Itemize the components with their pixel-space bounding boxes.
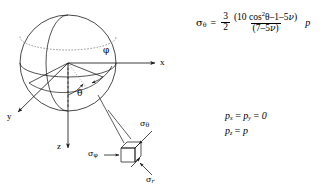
cube-right-face xyxy=(135,142,141,162)
pxy-value: 0 xyxy=(262,110,267,121)
sigma-phi-subscript: φ xyxy=(93,151,97,158)
sigma-theta-subscript: θ xyxy=(145,121,149,128)
y-axis-line xyxy=(18,63,68,112)
x-axis-label: x xyxy=(160,58,165,67)
pressure-line-xy: px = py = 0 xyxy=(225,109,267,124)
theta-angle-label: θ xyxy=(77,89,82,98)
equation-equals-sign: = xyxy=(211,17,217,28)
pressure-conditions: px = py = 0 pz = p xyxy=(225,109,267,138)
equation-lhs-symbol: σ xyxy=(196,17,203,28)
phi-angle-label: φ xyxy=(103,46,109,55)
sigma-phi-label: σφ xyxy=(88,150,98,159)
figure-root: x y z φ θ σθ σφ σr σθ = 3 2 (10 cos2θ–1–… xyxy=(0,0,336,193)
denominator-close: ) xyxy=(275,23,278,33)
fraction-numerator: (10 cos2θ–1–5ν) xyxy=(232,11,299,23)
y-axis-label: y xyxy=(7,112,12,121)
coefficient-denominator: 2 xyxy=(221,22,230,33)
pz-equals: = xyxy=(235,125,241,136)
pz-subscript: z xyxy=(230,130,232,136)
pz-value: p xyxy=(243,125,248,136)
denominator-open: (7–5 xyxy=(253,23,270,33)
leader-line-upper xyxy=(98,95,124,143)
z-axis-label: z xyxy=(57,142,61,151)
sigma-theta-arrow xyxy=(139,131,152,144)
sigma-r-label: σr xyxy=(146,176,154,184)
coefficient-fraction: 3 2 xyxy=(221,12,230,33)
hoop-stress-equation: σθ = 3 2 (10 cos2θ–1–5ν) (7–5ν) p xyxy=(196,11,310,34)
meridian-front xyxy=(46,15,68,111)
pxy-equals-2: = xyxy=(253,110,259,121)
numerator-open: (10 cos xyxy=(234,12,262,22)
equation-rhs-p: p xyxy=(305,17,310,28)
py-subscript: y xyxy=(248,115,251,121)
equation-lhs: σθ xyxy=(196,17,207,28)
numerator-close: ) xyxy=(294,12,297,22)
sigma-theta-label: σθ xyxy=(140,120,149,129)
fraction-denominator: (7–5ν) xyxy=(251,23,281,34)
stress-element-cube xyxy=(121,142,141,162)
px-subscript: x xyxy=(230,115,233,121)
pxy-equals-1: = xyxy=(235,110,241,121)
numerator-rest: –1–5 xyxy=(269,12,288,22)
sigma-theta-arrow-opposite xyxy=(131,158,140,167)
cube-front-face xyxy=(121,148,135,162)
sigma-r-arrow xyxy=(140,163,152,175)
pressure-line-z: pz = p xyxy=(225,124,267,139)
sigma-r-subscript: r xyxy=(151,177,154,184)
coefficient-numerator: 3 xyxy=(221,12,230,22)
equation-lhs-subscript: θ xyxy=(203,21,207,28)
equator-back-dotted xyxy=(20,37,116,50)
main-fraction: (10 cos2θ–1–5ν) (7–5ν) xyxy=(232,11,299,34)
